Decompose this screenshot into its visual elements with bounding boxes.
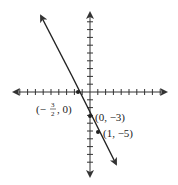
label-fraction-numerator: 3 — [51, 101, 55, 109]
point-1-neg5 — [96, 130, 100, 134]
label-fraction-denominator: 2 — [51, 110, 55, 118]
point-y-intercept — [88, 114, 92, 118]
coordinate-plane: (− 3 2 , 0) (0, −3) (1, −5) — [0, 0, 178, 185]
label-point-1-neg5: (1, −5) — [103, 127, 133, 140]
point-x-intercept — [76, 90, 80, 94]
label-y-intercept: (0, −3) — [95, 111, 125, 124]
label-x-intercept-close: , 0) — [57, 103, 72, 116]
graph-line — [41, 16, 72, 76]
label-x-intercept-open: (− — [36, 103, 46, 116]
